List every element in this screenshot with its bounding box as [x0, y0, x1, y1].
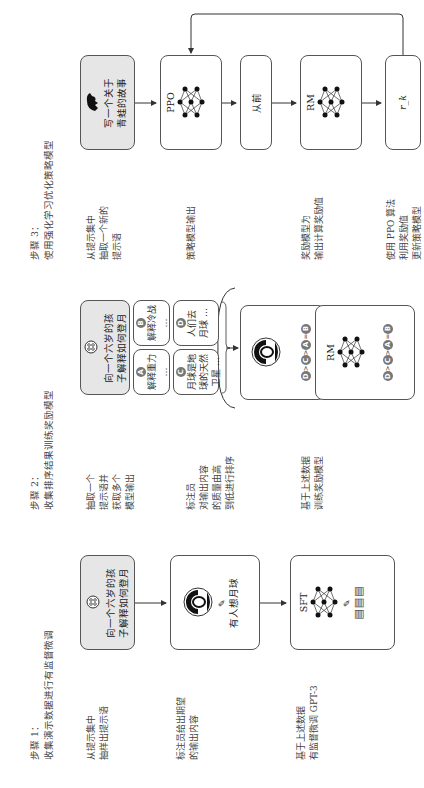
diagram-canvas: 步骤 1： 收集演示数据进行有监督微调 从提示集中 抽样出提示语 向一个六岁的孩… — [0, 0, 424, 788]
feedback-loop-arrow — [0, 0, 424, 788]
